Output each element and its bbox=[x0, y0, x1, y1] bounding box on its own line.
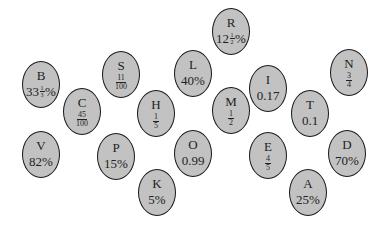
node-value: 3313% bbox=[26, 85, 56, 99]
whole-part: 12 bbox=[216, 32, 229, 46]
node-n: N34 bbox=[330, 49, 368, 96]
fraction: 34 bbox=[346, 72, 352, 89]
fraction-denominator: 4 bbox=[346, 81, 352, 89]
node-letter: N bbox=[344, 57, 353, 70]
node-i: I0.17 bbox=[249, 65, 287, 112]
node-value: 5% bbox=[148, 193, 165, 207]
fraction-denominator: 5 bbox=[153, 122, 159, 130]
node-letter: A bbox=[303, 177, 312, 190]
node-l: L40% bbox=[174, 50, 212, 97]
node-value: 0.99 bbox=[182, 154, 205, 168]
node-letter: I bbox=[266, 73, 270, 86]
node-value: 11100 bbox=[114, 74, 128, 91]
node-value: 12 bbox=[228, 110, 234, 127]
node-letter: B bbox=[37, 69, 46, 82]
fraction-denominator: 100 bbox=[114, 83, 128, 91]
fraction: 15 bbox=[153, 113, 159, 130]
node-value: 15% bbox=[104, 157, 128, 171]
node-t: T0.1 bbox=[291, 90, 329, 137]
node-letter: T bbox=[306, 98, 314, 111]
node-value: 34 bbox=[346, 72, 352, 89]
node-value: 82% bbox=[29, 155, 53, 169]
node-letter: C bbox=[78, 96, 87, 109]
node-value: 1212% bbox=[216, 32, 246, 46]
node-letter: L bbox=[189, 58, 197, 71]
node-value: 45 bbox=[265, 155, 271, 172]
fraction-denominator: 2 bbox=[230, 39, 235, 45]
node-letter: V bbox=[36, 139, 45, 152]
node-k: K5% bbox=[138, 169, 176, 216]
node-value: 15 bbox=[153, 113, 159, 130]
fraction-denominator: 3 bbox=[40, 92, 45, 98]
node-c: C45100 bbox=[63, 88, 101, 135]
node-b: B3313% bbox=[22, 61, 60, 108]
node-letter: O bbox=[188, 138, 197, 151]
node-a: A25% bbox=[289, 169, 327, 216]
node-v: V82% bbox=[22, 131, 60, 178]
node-h: H15 bbox=[137, 90, 175, 137]
node-letter: M bbox=[225, 95, 237, 108]
node-letter: S bbox=[117, 59, 124, 72]
node-p: P15% bbox=[97, 133, 135, 180]
node-d: D70% bbox=[328, 130, 366, 177]
node-value: 25% bbox=[296, 193, 320, 207]
fraction-denominator: 2 bbox=[228, 119, 234, 127]
node-s: S11100 bbox=[102, 51, 140, 98]
fraction-numerator: 1 bbox=[40, 85, 45, 92]
node-value: 0.17 bbox=[257, 89, 280, 103]
node-value: 40% bbox=[181, 74, 205, 88]
node-letter: D bbox=[342, 138, 351, 151]
node-o: O0.99 bbox=[174, 130, 212, 177]
fraction: 11100 bbox=[114, 74, 128, 91]
node-letter: P bbox=[112, 141, 119, 154]
fraction: 12 bbox=[230, 32, 235, 45]
node-letter: K bbox=[152, 177, 161, 190]
fraction-denominator: 5 bbox=[265, 164, 271, 172]
percent-sign: % bbox=[235, 32, 246, 46]
whole-part: 33 bbox=[26, 85, 39, 99]
node-letter: E bbox=[264, 140, 272, 153]
node-m: M12 bbox=[212, 87, 250, 134]
node-value: 45100 bbox=[75, 111, 89, 128]
node-e: E45 bbox=[249, 132, 287, 179]
fraction-numerator: 1 bbox=[230, 32, 235, 39]
fraction: 45 bbox=[265, 155, 271, 172]
fraction-denominator: 100 bbox=[75, 120, 89, 128]
node-value: 0.1 bbox=[302, 114, 318, 128]
node-letter: H bbox=[151, 98, 160, 111]
fraction: 12 bbox=[228, 110, 234, 127]
percent-sign: % bbox=[45, 85, 56, 99]
fraction: 13 bbox=[40, 85, 45, 98]
node-value: 70% bbox=[335, 154, 359, 168]
node-letter: R bbox=[227, 16, 236, 29]
node-r: R1212% bbox=[212, 8, 250, 55]
fraction: 45100 bbox=[75, 111, 89, 128]
